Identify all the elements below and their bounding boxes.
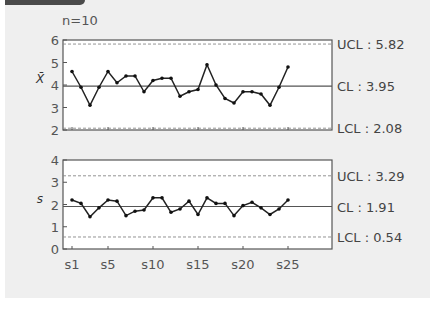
- s-y-tick-label: 2: [51, 198, 59, 213]
- s-ucl-label: UCL : 3.29: [337, 169, 404, 184]
- x-tick-label-s5: s5: [100, 257, 115, 272]
- s-data-point-s11: [160, 196, 164, 200]
- s-data-point-s13: [178, 207, 182, 211]
- s-data-point-s14: [187, 199, 191, 203]
- xbar-data-point-s9: [142, 90, 146, 94]
- xbar-data-point-s8: [133, 74, 137, 78]
- xbar-data-point-s18: [223, 97, 227, 101]
- s-data-point-s19: [232, 214, 236, 218]
- s-data-point-s6: [115, 199, 119, 203]
- x-tick-label-s25: s25: [276, 257, 299, 272]
- xbar-data-point-s6: [115, 81, 119, 85]
- xbar-data-point-s7: [124, 74, 128, 78]
- xbar-data-point-s10: [151, 79, 155, 83]
- s-data-point-s17: [214, 202, 218, 206]
- xbar-data-point-s25: [286, 65, 290, 69]
- xbar-y-axis-label: X̄: [35, 72, 45, 86]
- control-chart: n=1023456X̄UCL : 5.82CL : 3.95LCL : 2.08…: [0, 0, 430, 309]
- s-y-tick-label: 1: [51, 220, 59, 235]
- xbar-y-tick-label: 3: [51, 101, 59, 116]
- s-data-point-s21: [250, 200, 254, 204]
- xbar-data-point-s17: [214, 83, 218, 87]
- s-data-point-s8: [133, 209, 137, 213]
- xbar-data-point-s20: [241, 90, 245, 94]
- s-data-point-s5: [106, 198, 110, 202]
- s-data-point-s15: [196, 213, 200, 217]
- xbar-data-point-s19: [232, 101, 236, 105]
- s-data-point-s25: [286, 198, 290, 202]
- x-tick-label-s1: s1: [64, 257, 79, 272]
- xbar-ucl-label: UCL : 5.82: [337, 37, 404, 52]
- xbar-data-point-s4: [97, 85, 101, 89]
- xbar-data-point-s2: [79, 85, 83, 89]
- xbar-plot-area: [63, 40, 332, 130]
- s-cl-label: CL : 1.91: [337, 200, 395, 215]
- xbar-y-tick-label: 6: [51, 33, 59, 48]
- xbar-data-point-s1: [70, 70, 74, 74]
- s-data-point-s2: [79, 202, 83, 206]
- s-data-point-s10: [151, 196, 155, 200]
- s-y-tick-label: 3: [51, 175, 59, 190]
- s-data-point-s22: [259, 206, 263, 210]
- s-data-point-s24: [277, 207, 281, 211]
- s-data-point-s18: [223, 202, 227, 206]
- s-data-point-s20: [241, 204, 245, 208]
- xbar-data-point-s11: [160, 76, 164, 80]
- xbar-data-point-s24: [277, 85, 281, 89]
- xbar-data-point-s21: [250, 90, 254, 94]
- sample-size-label: n=10: [62, 13, 98, 28]
- s-data-point-s7: [124, 214, 128, 218]
- xbar-lcl-label: LCL : 2.08: [337, 121, 402, 136]
- s-data-point-s4: [97, 206, 101, 210]
- xbar-data-point-s22: [259, 92, 263, 96]
- xbar-data-point-s23: [268, 103, 272, 107]
- xbar-data-point-s16: [205, 63, 209, 67]
- s-data-point-s23: [268, 213, 272, 217]
- s-data-point-s3: [88, 215, 92, 219]
- xbar-cl-label: CL : 3.95: [337, 79, 395, 94]
- x-tick-label-s10: s10: [141, 257, 164, 272]
- xbar-data-point-s15: [196, 88, 200, 92]
- s-data-point-s1: [70, 198, 74, 202]
- xbar-data-point-s12: [169, 76, 173, 80]
- xbar-data-point-s14: [187, 90, 191, 94]
- xbar-data-point-s3: [88, 103, 92, 107]
- s-data-point-s12: [169, 210, 173, 214]
- s-data-point-s9: [142, 208, 146, 212]
- xbar-y-tick-label: 2: [51, 123, 59, 138]
- xbar-y-tick-label: 5: [51, 56, 59, 71]
- xbar-y-tick-label: 4: [51, 78, 59, 93]
- s-y-tick-label: 4: [51, 153, 59, 168]
- s-y-axis-label: s: [37, 192, 43, 206]
- s-lcl-label: LCL : 0.54: [337, 230, 402, 245]
- s-data-point-s16: [205, 196, 209, 200]
- xbar-data-point-s13: [178, 94, 182, 98]
- x-tick-label-s20: s20: [231, 257, 254, 272]
- s-y-tick-label: 0: [51, 242, 59, 257]
- x-tick-label-s15: s15: [186, 257, 209, 272]
- xbar-data-point-s5: [106, 70, 110, 74]
